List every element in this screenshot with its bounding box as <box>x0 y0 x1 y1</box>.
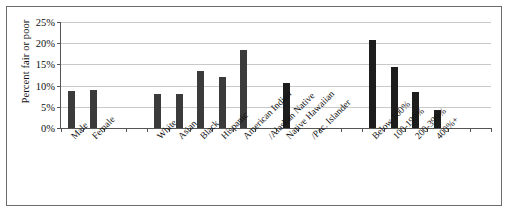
gridline <box>61 43 491 44</box>
bar <box>90 90 97 128</box>
x-tick-mark <box>491 128 492 132</box>
bar <box>68 91 75 128</box>
y-tick-mark <box>57 64 61 65</box>
y-tick-label: 15% <box>36 59 55 70</box>
y-tick-label: 5% <box>41 101 55 112</box>
bar <box>369 40 376 128</box>
y-tick-mark <box>57 22 61 23</box>
x-tick-mark <box>470 128 471 132</box>
y-tick-mark <box>57 43 61 44</box>
y-tick-label: 10% <box>36 80 55 91</box>
y-tick-label: 0% <box>41 123 55 134</box>
y-tick-mark <box>57 86 61 87</box>
gridline <box>61 86 491 87</box>
y-tick-label: 20% <box>36 38 55 49</box>
y-axis-title: Percent fair or poor <box>20 0 31 127</box>
chart-figure: Percent fair or poor 0%5%10%15%20%25% Ma… <box>0 0 510 220</box>
gridline <box>61 22 491 23</box>
y-tick-mark <box>57 107 61 108</box>
y-tick-label: 25% <box>36 17 55 28</box>
x-tick-mark <box>341 128 342 132</box>
gridline <box>61 64 491 65</box>
x-tick-mark <box>61 128 62 132</box>
bar <box>219 77 226 128</box>
bar <box>154 94 161 128</box>
x-tick-mark <box>362 128 363 132</box>
x-tick-mark <box>126 128 127 132</box>
x-tick-mark <box>147 128 148 132</box>
bar <box>197 71 204 128</box>
